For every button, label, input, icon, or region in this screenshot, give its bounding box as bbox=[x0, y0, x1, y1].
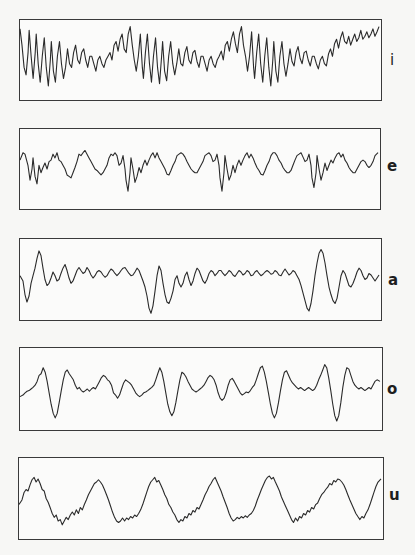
waveform-panel-u bbox=[18, 457, 384, 540]
waveform-line-a bbox=[20, 249, 379, 313]
waveform-line-i bbox=[20, 27, 379, 86]
waveform-plot-a bbox=[20, 239, 381, 320]
waveform-panel-e bbox=[19, 128, 381, 210]
waveform-panel-o bbox=[19, 347, 383, 431]
waveform-panel-a bbox=[19, 238, 382, 321]
vowel-label-o: o bbox=[387, 382, 397, 397]
vowel-label-e: e bbox=[387, 159, 397, 174]
waveform-plot-u bbox=[19, 458, 383, 539]
waveform-line-u bbox=[19, 476, 381, 525]
vowel-label-i: i bbox=[390, 53, 394, 68]
waveform-plot-o bbox=[20, 348, 382, 430]
waveform-panel-i bbox=[19, 19, 382, 101]
waveform-line-e bbox=[20, 150, 378, 191]
vowel-label-a: a bbox=[388, 273, 398, 288]
waveform-line-o bbox=[20, 365, 380, 421]
waveform-plot-i bbox=[20, 20, 381, 100]
waveform-plot-e bbox=[20, 129, 380, 209]
vowel-label-u: u bbox=[389, 488, 400, 503]
